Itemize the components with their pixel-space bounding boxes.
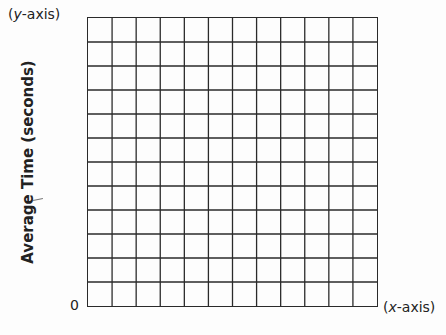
- y-axis-tag-var: y: [13, 6, 21, 22]
- chart-canvas: (y-axis) Average Time (seconds) 0 (x-axi…: [0, 0, 446, 335]
- x-axis-tag: (x-axis): [383, 299, 435, 315]
- origin-label: 0: [70, 297, 79, 313]
- x-axis-tag-rest: -axis): [397, 299, 436, 315]
- y-axis-title: Average Time (seconds): [19, 60, 37, 263]
- y-axis-tag-rest: -axis): [22, 6, 61, 22]
- grid-lines: [88, 18, 377, 306]
- y-axis-tag: (y-axis): [8, 6, 60, 22]
- graph-grid: [87, 17, 378, 307]
- x-axis-tag-var: x: [388, 299, 396, 315]
